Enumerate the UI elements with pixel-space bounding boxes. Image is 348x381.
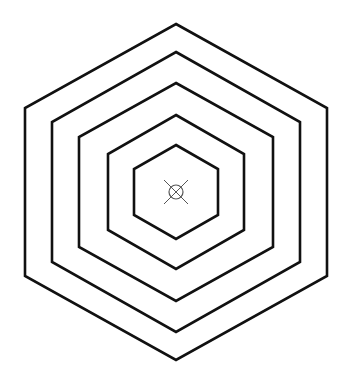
concentric-hexagons-diagram xyxy=(0,0,348,381)
crossed-circle-marker-icon xyxy=(164,180,188,204)
diagram-canvas xyxy=(0,0,348,381)
